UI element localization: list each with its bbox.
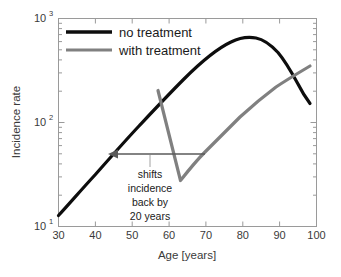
x-tick-label: 30 <box>52 229 64 241</box>
y-tick-label: 10 <box>34 220 46 232</box>
y-tick-exponent: 1 <box>49 217 53 226</box>
chart-figure: 30 40 50 60 70 80 90 100 10 3 10 2 10 1 … <box>0 0 341 277</box>
annotation-line-3: back by <box>132 196 169 208</box>
annotation-line-1: shifts <box>138 168 163 180</box>
y-tick-exponent: 2 <box>49 113 53 122</box>
legend-label-with-treatment: with treatment <box>118 43 201 58</box>
x-axis-title: Age [years] <box>158 249 216 261</box>
legend-label-no-treatment: no treatment <box>119 25 192 40</box>
x-tick-label: 60 <box>163 229 175 241</box>
annotation-line-2: incidence <box>128 182 173 194</box>
y-tick-label: 10 <box>34 12 46 24</box>
y-tick-exponent: 3 <box>49 9 53 18</box>
x-tick-label: 70 <box>200 229 212 241</box>
incidence-rate-chart: 30 40 50 60 70 80 90 100 10 3 10 2 10 1 … <box>0 0 341 277</box>
x-tick-label: 40 <box>89 229 101 241</box>
y-axis-title: Incidence rate <box>10 86 22 158</box>
x-tick-label: 50 <box>126 229 138 241</box>
y-tick-label: 10 <box>34 116 46 128</box>
x-tick-label: 80 <box>237 229 249 241</box>
x-tick-label: 100 <box>307 229 325 241</box>
x-tick-label: 90 <box>273 229 285 241</box>
annotation-line-4: 20 years <box>130 210 170 222</box>
